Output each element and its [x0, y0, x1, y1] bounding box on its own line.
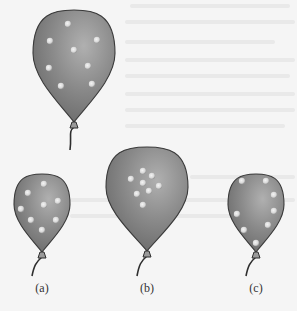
balloon-dot [140, 202, 146, 208]
balloons-figure [0, 0, 297, 311]
balloon-string [70, 127, 74, 150]
balloon-knot [252, 252, 260, 258]
balloon-string [246, 257, 256, 276]
balloon-dot [271, 208, 277, 214]
balloon-dot [94, 37, 100, 43]
balloon-dot [146, 188, 152, 194]
balloon-knot [70, 122, 78, 128]
balloon-dot [46, 65, 52, 71]
balloon-dot [265, 222, 271, 228]
balloon-dot [140, 168, 146, 174]
balloon-c [228, 174, 284, 276]
balloon-body [106, 147, 188, 251]
balloon-dot [85, 63, 91, 69]
balloon-dot [71, 47, 77, 53]
balloon-body [33, 10, 115, 122]
balloon-dot [128, 176, 134, 182]
balloon-dot [58, 83, 64, 89]
balloon-dot [263, 178, 269, 184]
balloon-dot [149, 173, 155, 179]
balloon-dot [28, 217, 34, 223]
balloon-dot [18, 206, 24, 212]
balloon-dot [241, 227, 247, 233]
balloon-dot [65, 21, 71, 27]
balloon-dot [53, 217, 59, 223]
balloon-b [106, 147, 188, 276]
balloon-knot [38, 252, 46, 258]
balloon-dot [271, 192, 277, 198]
balloon-dot [234, 211, 240, 217]
balloon-string [32, 257, 42, 276]
balloon-dot [239, 178, 245, 184]
balloon-dot [55, 198, 61, 204]
balloon-dot [134, 191, 140, 197]
balloon-dot [140, 180, 146, 186]
label-c: (c) [249, 282, 262, 294]
label-a: (a) [35, 282, 48, 294]
balloon-string [137, 256, 147, 276]
balloon-dot [41, 202, 47, 208]
balloon-dot [156, 183, 162, 189]
balloon-knot [143, 251, 151, 257]
balloon-top [33, 10, 115, 150]
balloon-dot [253, 240, 259, 246]
balloon-dot [25, 190, 31, 196]
balloon-dot [47, 38, 53, 44]
balloon-dot [39, 227, 45, 233]
balloon-a [14, 174, 70, 276]
balloon-dot [89, 81, 95, 87]
balloon-dot [41, 181, 47, 187]
label-b: (b) [140, 282, 154, 294]
